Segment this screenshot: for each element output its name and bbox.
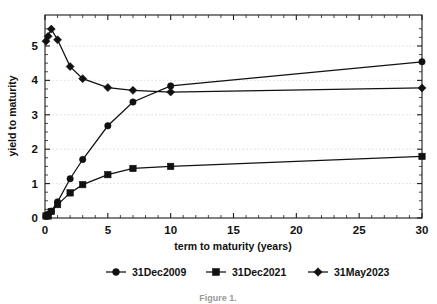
x-tick-label: 0 <box>42 224 48 236</box>
y-tick-label: 2 <box>32 143 38 155</box>
figure-caption: Figure 1. <box>199 293 237 303</box>
legend-label: 31Dec2009 <box>132 266 186 278</box>
data-point-circle <box>419 59 425 65</box>
y-axis-title: yield to maturity <box>6 75 18 156</box>
legend-label: 31Dec2021 <box>232 266 286 278</box>
y-tick-label: 3 <box>32 109 38 121</box>
data-point-square <box>167 163 173 169</box>
data-point-square <box>80 181 86 187</box>
data-point-square <box>54 201 60 207</box>
x-tick-label: 5 <box>105 224 112 236</box>
y-tick-label: 1 <box>32 178 39 190</box>
y-tick-label: 5 <box>32 40 39 52</box>
data-point-square <box>67 190 73 196</box>
data-point-square <box>213 269 220 276</box>
x-tick-label: 15 <box>227 224 240 236</box>
data-point-square <box>419 153 425 159</box>
figure-container: 051015202530 012345 term to maturity (ye… <box>0 0 437 304</box>
data-point-circle <box>113 269 120 276</box>
x-tick-label: 30 <box>416 224 429 236</box>
yield-curve-chart: 051015202530 012345 term to maturity (ye… <box>0 0 437 304</box>
data-point-circle <box>130 99 136 105</box>
x-axis-title: term to maturity (years) <box>174 240 291 252</box>
x-tick-label: 10 <box>164 224 177 236</box>
data-point-circle <box>105 123 111 129</box>
y-tick-label: 0 <box>32 212 38 224</box>
chart-legend: 31Dec200931Dec202131May2023 <box>106 266 390 278</box>
legend-label: 31May2023 <box>334 266 390 278</box>
y-tick-label: 4 <box>32 74 39 86</box>
x-tick-label: 25 <box>353 224 366 236</box>
data-point-square <box>48 208 54 214</box>
x-tick-label: 20 <box>290 224 303 236</box>
data-point-square <box>130 165 136 171</box>
data-point-circle <box>80 156 86 162</box>
data-point-square <box>105 171 111 177</box>
data-point-circle <box>67 176 73 182</box>
